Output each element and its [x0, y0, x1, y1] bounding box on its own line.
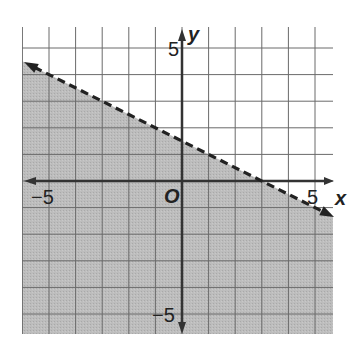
svg-text:−5: −5	[31, 186, 54, 208]
svg-text:O: O	[164, 185, 180, 207]
svg-text:−5: −5	[152, 304, 175, 326]
inequality-plot: −555−5Oyx	[0, 0, 349, 347]
svg-text:x: x	[334, 187, 347, 209]
svg-text:5: 5	[307, 186, 318, 208]
svg-text:5: 5	[168, 38, 179, 60]
svg-text:y: y	[187, 23, 200, 45]
